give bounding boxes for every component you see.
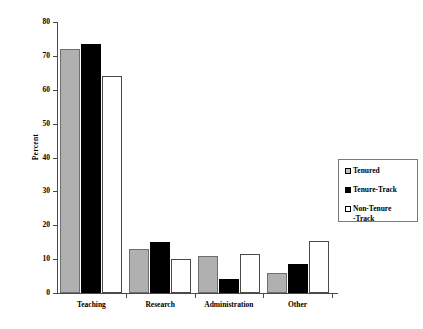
legend-item-label: Non-Tenure -Track (353, 204, 391, 223)
x-axis-category-label: Other (263, 299, 332, 310)
x-axis-separator (126, 293, 127, 298)
bar-group: Administration (195, 22, 264, 293)
bar (198, 256, 218, 293)
x-axis-category-label: Teaching (57, 299, 126, 310)
y-axis-tick-label: 10 (43, 253, 51, 264)
chart-legend: TenuredTenure-TrackNon-Tenure -Track (338, 159, 418, 222)
bar (129, 249, 149, 293)
y-axis-tick-label: 70 (43, 50, 51, 61)
x-axis-category-label: Administration (195, 299, 264, 310)
black-filled-square-icon (345, 187, 351, 193)
x-axis-separator (195, 293, 196, 298)
x-axis-separator (263, 293, 264, 298)
bar (240, 254, 260, 293)
bar (102, 76, 122, 293)
y-axis-tick-label: 40 (43, 152, 51, 163)
gray-filled-square-icon (345, 168, 351, 174)
y-axis-tick-label: 60 (43, 84, 51, 95)
y-axis-tick-label: 0 (46, 287, 50, 298)
x-axis-line (57, 293, 338, 294)
y-axis-tick: 0 (53, 293, 57, 294)
bar (267, 273, 287, 293)
bar (60, 49, 80, 293)
legend-item[interactable]: Tenured (345, 166, 380, 176)
y-axis-tick-label: 50 (43, 118, 51, 129)
bar (171, 259, 191, 293)
x-axis-category-label: Research (126, 299, 195, 310)
legend-item[interactable]: Non-Tenure -Track (345, 204, 391, 223)
legend-item[interactable]: Tenure-Track (345, 185, 397, 195)
y-axis-tick-label: 80 (43, 16, 51, 27)
bar (219, 279, 239, 293)
y-axis-tick-label: 20 (43, 219, 51, 230)
legend-item-label: Tenure-Track (353, 185, 397, 195)
plot-area: 01020304050607080 TeachingResearchAdmini… (57, 22, 332, 293)
white-empty-square-icon (345, 206, 351, 212)
bar (288, 264, 308, 293)
y-axis-tick-label: 30 (43, 185, 51, 196)
bar (81, 44, 101, 293)
legend-item-label: Tenured (353, 166, 380, 176)
bar-group: Research (126, 22, 195, 293)
bar-group: Teaching (57, 22, 126, 293)
bar-group: Other (263, 22, 332, 293)
x-axis-separator (332, 293, 333, 298)
bar (309, 241, 329, 294)
bar-chart: Percent 01020304050607080 TeachingResear… (0, 0, 423, 329)
bar (150, 242, 170, 293)
